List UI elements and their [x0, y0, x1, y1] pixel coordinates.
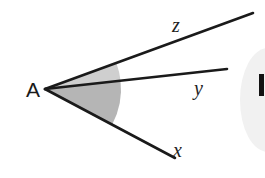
ray-label-x: x: [172, 139, 182, 161]
angle-diagram-canvas: A z y x: [0, 0, 265, 178]
ray-label-z: z: [171, 14, 180, 36]
page-edge-dark-bar-artifact: [259, 74, 264, 96]
vertex-label-a: A: [26, 78, 40, 101]
angle-diagram-figure: A z y x: [0, 0, 265, 178]
ray-label-y: y: [192, 77, 203, 100]
